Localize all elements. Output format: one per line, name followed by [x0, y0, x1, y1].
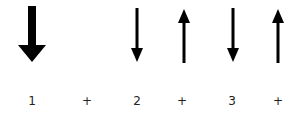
thin-down-arrow-icon	[227, 8, 239, 62]
arrow-diagram: 1 + 2 + 3 +	[0, 0, 301, 119]
thin-up-arrow-icon	[272, 9, 284, 63]
arrows-layer	[0, 0, 301, 119]
thick-down-arrow-icon	[18, 6, 46, 62]
label-plus: +	[273, 93, 283, 109]
label-plus: +	[82, 93, 92, 109]
label-2: 2	[133, 93, 141, 109]
label-plus: +	[177, 93, 187, 109]
thin-down-arrow-icon	[131, 8, 143, 62]
label-3: 3	[228, 93, 236, 109]
thin-up-arrow-icon	[178, 9, 190, 63]
label-1: 1	[28, 93, 36, 109]
